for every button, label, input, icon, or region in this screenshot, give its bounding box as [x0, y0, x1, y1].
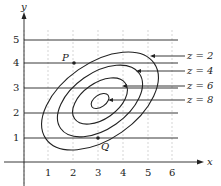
svg-text:6: 6	[169, 167, 175, 178]
svg-text:3: 3	[13, 82, 19, 93]
contour-z8	[88, 90, 111, 111]
label-z8: z = 8	[186, 94, 213, 105]
y-axis-arrow-icon	[22, 12, 27, 19]
arrow-z2-icon	[150, 54, 155, 58]
label-z4: z = 4	[186, 65, 213, 76]
label-z6: z = 6	[186, 80, 214, 91]
x-axis-label: x	[207, 156, 213, 167]
svg-text:4: 4	[13, 57, 19, 68]
contour-diagram: x y 1 2 3 4 5 6 1 2 3 4 5 P Q z = 2 z = …	[0, 0, 221, 186]
label-z2: z = 2	[186, 50, 213, 61]
point-q	[96, 136, 100, 140]
x-axis-arrow-icon	[197, 160, 204, 165]
contour-z2	[24, 32, 176, 170]
y-axis-label: y	[20, 1, 27, 12]
point-p-label: P	[61, 52, 69, 63]
svg-text:1: 1	[45, 167, 51, 178]
point-q-label: Q	[101, 141, 109, 152]
contour-labels: z = 2 z = 4 z = 6 z = 8	[186, 50, 214, 105]
contour-z4	[45, 51, 156, 152]
svg-text:3: 3	[95, 167, 101, 178]
y-tick-labels: 1 2 3 4 5	[13, 34, 19, 143]
contour-z6	[64, 68, 135, 133]
point-p	[72, 61, 76, 65]
x-tick-labels: 1 2 3 4 5 6	[45, 167, 175, 178]
svg-text:4: 4	[120, 167, 126, 178]
svg-text:5: 5	[13, 34, 19, 45]
svg-text:2: 2	[13, 107, 19, 118]
svg-text:1: 1	[13, 132, 19, 143]
svg-text:5: 5	[145, 167, 151, 178]
svg-text:2: 2	[70, 167, 76, 178]
contour-curves	[24, 32, 176, 170]
axes	[4, 16, 200, 186]
